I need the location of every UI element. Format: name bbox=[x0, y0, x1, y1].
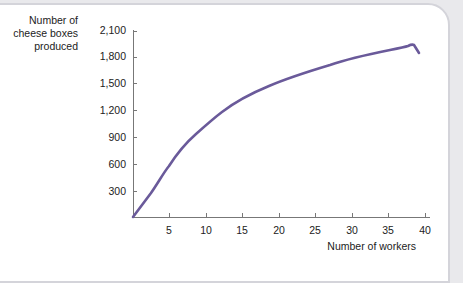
production-curve bbox=[133, 45, 419, 217]
axes bbox=[133, 30, 430, 218]
